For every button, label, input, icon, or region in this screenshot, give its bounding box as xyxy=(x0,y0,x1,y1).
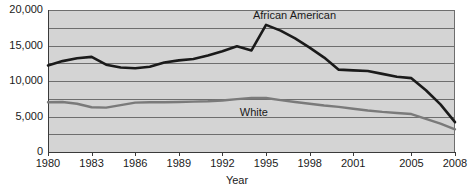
y-axis-tick-label: 0 xyxy=(0,145,43,157)
line-chart: 05,00010,00015,00020,000 198019831986198… xyxy=(0,0,474,193)
x-axis-tick-label: 1980 xyxy=(23,157,73,169)
y-axis-tick-label: 5,000 xyxy=(0,110,43,122)
x-axis-tick-label: 1995 xyxy=(241,157,291,169)
series-label-african-american: African American xyxy=(253,9,336,21)
y-axis-tick-label: 10,000 xyxy=(0,74,43,86)
series-label-white: White xyxy=(240,106,268,118)
x-axis-title: Year xyxy=(0,174,474,186)
y-axis-tick-label: 15,000 xyxy=(0,39,43,51)
y-axis-tick-label: 20,000 xyxy=(0,3,43,15)
x-axis-tick-label: 1998 xyxy=(285,157,335,169)
x-axis-tick-label: 2008 xyxy=(430,157,474,169)
x-axis-tick-label: 1986 xyxy=(110,157,160,169)
x-axis-tick-label: 1983 xyxy=(67,157,117,169)
x-axis-tick-label: 2001 xyxy=(328,157,378,169)
x-axis-tick-label: 1989 xyxy=(154,157,204,169)
x-axis-tick-label: 1992 xyxy=(197,157,247,169)
x-axis-tick-label: 2005 xyxy=(386,157,436,169)
